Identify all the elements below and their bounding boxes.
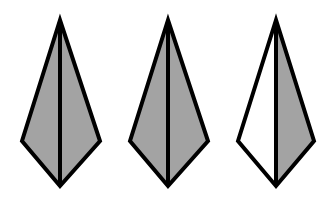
kite-1 (22, 20, 100, 186)
kite-3 (238, 20, 314, 186)
figure-canvas: Three kite-shaped pyramids viewed from t… (0, 0, 320, 204)
kite-2 (130, 20, 208, 186)
kites-figure (0, 0, 320, 204)
